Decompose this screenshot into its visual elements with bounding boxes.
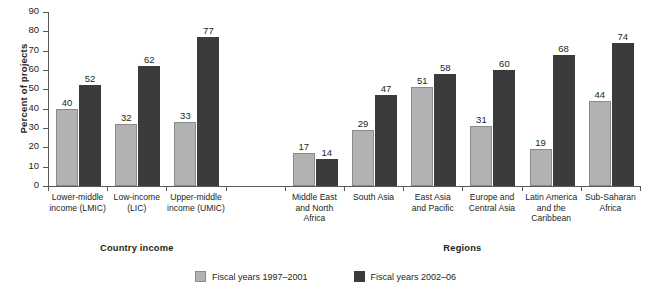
category-label-line: Upper-middle [160,192,231,203]
bar: 29 [352,130,374,186]
section-title: Regions [285,243,640,253]
bar-value-label: 40 [62,97,73,108]
bar: 32 [115,124,137,186]
bar: 62 [138,66,160,186]
y-axis-tick-label: 90 [28,5,39,16]
bar: 68 [553,55,575,186]
bar-group: 4474 [581,12,640,186]
bar: 58 [434,74,456,186]
category-label: Upper-middleincome (UMIC) [160,192,231,213]
legend-swatch [195,271,206,282]
bar-value-label: 19 [535,137,546,148]
y-axis-tick-label: 10 [28,160,39,171]
bar-group: 1714 [285,12,344,186]
bar-value-label: 74 [618,31,629,42]
bar-group: 1968 [522,12,581,186]
bar: 74 [612,43,634,186]
x-axis-tick [581,186,582,191]
bar-value-label: 77 [203,25,214,36]
bar-group: 3377 [166,12,225,186]
bar: 52 [79,85,101,186]
category-label-line: Sub-Saharan [575,192,646,203]
category-label: Sub-SaharanAfrica [575,192,646,213]
bar-value-label: 32 [121,112,132,123]
bar-value-label: 52 [85,73,96,84]
bar: 47 [375,95,397,186]
y-axis-title: Percent of projects [18,19,29,159]
bar: 51 [411,87,433,186]
bar: 31 [470,126,492,186]
section-title: Country income [48,243,226,253]
bar-value-label: 47 [381,83,392,94]
bar: 14 [316,159,338,186]
x-axis-tick [48,186,49,191]
y-axis-tick-label: 60 [28,63,39,74]
bar: 33 [174,122,196,186]
bar: 44 [589,101,611,186]
x-axis-tick [640,186,641,191]
bar-value-label: 58 [440,62,451,73]
y-axis-tick-label: 50 [28,82,39,93]
category-label-line: Africa [575,203,646,214]
bar-group: 4052 [48,12,107,186]
x-axis-tick [522,186,523,191]
bar-group: 3262 [107,12,166,186]
bar-value-label: 60 [499,58,510,69]
bar-value-label: 33 [180,110,191,121]
chart-legend: Fiscal years 1997–2001Fiscal years 2002–… [0,271,651,282]
bar-value-label: 14 [322,147,333,158]
x-axis-tick [403,186,404,191]
y-axis-tick-label: 40 [28,102,39,113]
y-axis-tick-label: 70 [28,44,39,55]
bar-value-label: 51 [417,75,428,86]
plot-area: 0102030405060708090405232623377171429475… [48,12,640,186]
x-axis-tick [344,186,345,191]
y-axis-tick-label: 80 [28,24,39,35]
bar-value-label: 17 [299,141,310,152]
bar: 60 [493,70,515,186]
category-label-line: Africa [279,213,350,224]
legend-label: Fiscal years 1997–2001 [212,272,308,282]
x-axis-tick [226,186,227,191]
x-axis-tick [166,186,167,191]
x-axis-tick [285,186,286,191]
bar-value-label: 68 [558,43,569,54]
legend-swatch [354,271,365,282]
bar-group: 2947 [344,12,403,186]
legend-label: Fiscal years 2002–06 [371,272,457,282]
bar-group: 5158 [403,12,462,186]
bar-value-label: 44 [595,89,606,100]
bar-value-label: 31 [476,114,487,125]
bar-chart: Percent of projects 01020304050607080904… [0,0,651,296]
bar-group: 3160 [462,12,521,186]
bar: 19 [530,149,552,186]
y-axis-tick-label: 30 [28,121,39,132]
bar-value-label: 29 [358,118,369,129]
bar: 17 [293,153,315,186]
category-label-line: income (UMIC) [160,203,231,214]
bar: 77 [197,37,219,186]
y-axis-tick-label: 20 [28,140,39,151]
y-axis-tick-label: 0 [34,179,39,190]
category-label-line: Caribbean [516,213,587,224]
legend-item[interactable]: Fiscal years 2002–06 [354,271,457,282]
bar-value-label: 62 [144,54,155,65]
x-axis-tick [107,186,108,191]
x-axis-tick [462,186,463,191]
legend-item[interactable]: Fiscal years 1997–2001 [195,271,308,282]
category-label-line: and North [279,203,350,214]
bar: 40 [56,109,78,186]
